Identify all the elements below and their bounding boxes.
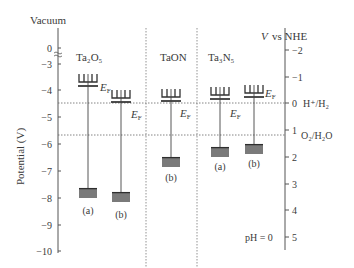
valence-band bbox=[162, 157, 180, 167]
left-tick-label: −4 bbox=[41, 85, 52, 96]
sample-tag: (a) bbox=[214, 161, 225, 173]
ph-label: pH = 0 bbox=[245, 232, 273, 243]
left-axis-ticks: 0−3−4−5−6−7−8−9−10 bbox=[36, 43, 61, 257]
sample-ta3n5-a: EF(a) bbox=[210, 87, 241, 173]
left-tick-label: −10 bbox=[36, 246, 52, 257]
potential-axis-label: Potential (V) bbox=[14, 128, 27, 185]
valence-band bbox=[79, 188, 97, 198]
sample-ta2o5-b: EF(b) bbox=[111, 90, 142, 221]
right-tick-label: −1 bbox=[292, 72, 303, 83]
right-tick-label: 2 bbox=[292, 152, 297, 163]
material-label: TaON bbox=[160, 51, 187, 63]
sample-ta2o5-a: EF(a) bbox=[78, 74, 111, 217]
valence-band bbox=[245, 144, 263, 154]
left-tick-label: −9 bbox=[41, 220, 52, 231]
left-tick-label: −6 bbox=[41, 139, 52, 150]
material-labels: Ta₂O₅TaONTa₃N₅ bbox=[76, 51, 235, 63]
right-tick-label: 4 bbox=[292, 205, 297, 216]
right-tick-label: −2 bbox=[292, 45, 303, 56]
fermi-label: EF bbox=[179, 107, 191, 121]
sample-tag: (b) bbox=[248, 158, 260, 170]
material-label: Ta₂O₅ bbox=[76, 51, 103, 63]
redox-label: H⁺/H₂ bbox=[303, 98, 329, 109]
right-axis-ticks: −2−1012345 bbox=[285, 45, 303, 243]
sample-tag: (a) bbox=[82, 205, 93, 217]
sample-ta3n5-b: EF(b) bbox=[244, 85, 276, 170]
right-tick-label: 0 bbox=[292, 98, 297, 109]
left-tick-label: −3 bbox=[41, 59, 52, 70]
right-tick-label: 5 bbox=[292, 232, 297, 243]
fermi-label: EF bbox=[99, 81, 111, 95]
band-diagram: Vacuum V vs NHE Potential (V) 0−3−4−5−6−… bbox=[0, 0, 354, 268]
left-tick-label: 0 bbox=[47, 43, 52, 54]
redox-label: O₂/H₂O bbox=[301, 130, 332, 141]
left-tick-label: −8 bbox=[41, 193, 52, 204]
fermi-label: EF bbox=[130, 108, 142, 122]
right-tick-label: 1 bbox=[292, 125, 297, 136]
left-tick-label: −5 bbox=[41, 112, 52, 123]
right-tick-label: 3 bbox=[292, 179, 297, 190]
vacuum-axis-title: Vacuum bbox=[30, 14, 66, 26]
sample-tag: (b) bbox=[115, 209, 127, 221]
material-label: Ta₃N₅ bbox=[208, 51, 235, 63]
band-samples: EF(a)EF(b)EF(b)EF(a)EF(b) bbox=[78, 74, 276, 221]
fermi-label: EF bbox=[229, 107, 241, 121]
valence-band bbox=[211, 147, 229, 157]
nhe-axis-title-v: V bbox=[261, 30, 269, 42]
sample-tag: (b) bbox=[165, 172, 177, 184]
fermi-label: EF bbox=[264, 87, 276, 101]
nhe-axis-title: vs NHE bbox=[272, 30, 307, 42]
left-tick-label: −7 bbox=[41, 166, 52, 177]
valence-band bbox=[112, 192, 130, 202]
